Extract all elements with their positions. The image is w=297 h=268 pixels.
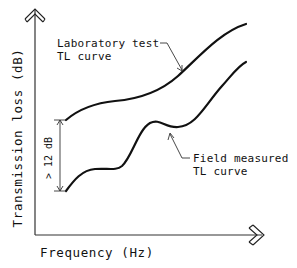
field-label-line2: TL curve xyxy=(193,165,248,178)
laboratory-label-line2: TL curve xyxy=(57,50,112,63)
field-leader-line xyxy=(168,133,190,158)
y-axis-label: Transmission loss (dB) xyxy=(10,49,25,228)
laboratory-label-line1: Laboratory test xyxy=(57,37,159,50)
x-axis xyxy=(35,225,264,245)
dimension-label: > 12 dB xyxy=(43,137,54,179)
tl-diagram: > 12 dB Laboratory test TL curve Field m… xyxy=(0,0,297,268)
laboratory-leader-line xyxy=(160,43,182,71)
dimension-marker xyxy=(54,120,66,191)
x-axis-label: Frequency (Hz) xyxy=(40,245,154,260)
y-axis xyxy=(25,9,45,235)
field-label-line1: Field measured xyxy=(193,152,289,165)
